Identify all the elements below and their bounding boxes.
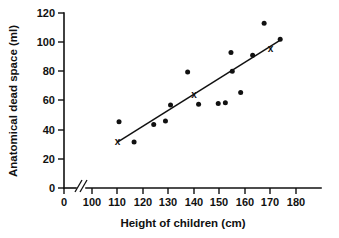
data-point <box>168 102 173 107</box>
marked-point-x: x <box>191 89 197 100</box>
y-tick-label-60: 60 <box>43 94 55 106</box>
data-point <box>238 90 243 95</box>
y-axis-ticks <box>58 13 64 188</box>
data-point <box>132 140 137 145</box>
data-point <box>278 37 283 42</box>
data-points-group <box>117 21 283 145</box>
regression-line <box>118 40 281 142</box>
x-tick-label-170: 170 <box>261 196 279 208</box>
y-tick-label-120: 120 <box>37 7 55 19</box>
x-axis-title: Height of children (cm) <box>120 217 245 229</box>
y-tick-label-40: 40 <box>43 124 55 136</box>
data-point <box>163 118 168 123</box>
marked-point-x: x <box>115 136 121 147</box>
x-tick-label-0: 0 <box>61 196 67 208</box>
marked-point-x: x <box>268 43 274 54</box>
x-tick-label-180: 180 <box>287 196 305 208</box>
x-tick-label-140: 140 <box>185 196 203 208</box>
data-point <box>230 69 235 74</box>
x-tick-label-130: 130 <box>159 196 177 208</box>
data-point <box>185 70 190 75</box>
x-tick-label-120: 120 <box>134 196 152 208</box>
y-axis-title: Anatomical dead space (ml) <box>7 25 19 177</box>
data-point <box>250 53 255 58</box>
y-tick-label-0: 0 <box>49 182 55 194</box>
data-point <box>223 100 228 105</box>
data-point <box>216 101 221 106</box>
y-tick-label-20: 20 <box>43 153 55 165</box>
plot-canvas: 120 100 80 60 40 20 0 0 100 110 120 130 … <box>0 0 339 238</box>
y-tick-label-80: 80 <box>43 65 55 77</box>
x-tick-label-110: 110 <box>108 196 126 208</box>
x-tick-label-100: 100 <box>83 196 101 208</box>
data-point <box>228 50 233 55</box>
y-tick-label-100: 100 <box>37 36 55 48</box>
fit-line <box>118 40 281 142</box>
data-point <box>117 119 122 124</box>
data-point <box>151 122 156 127</box>
data-point <box>196 102 201 107</box>
x-axis-ticks <box>64 188 296 194</box>
x-tick-label-150: 150 <box>210 196 228 208</box>
scatter-plot-figure: 120 100 80 60 40 20 0 0 100 110 120 130 … <box>0 0 339 238</box>
data-point <box>262 21 267 26</box>
x-tick-label-160: 160 <box>236 196 254 208</box>
